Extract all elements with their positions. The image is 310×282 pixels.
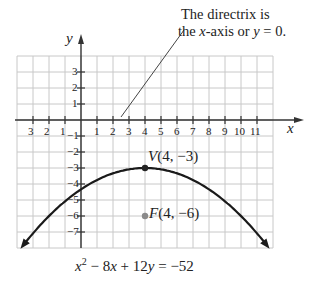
y-tick-label: −3	[67, 161, 79, 173]
x-axis-label: x	[287, 120, 294, 137]
x-tick-label: 1	[94, 125, 100, 137]
x-tick-label: 8	[206, 125, 212, 137]
equation-caption: x2 − 8x + 12y = −52	[75, 256, 194, 275]
y-tick-label: −4	[67, 177, 79, 189]
y-axis-label: y	[66, 30, 73, 47]
focus-label: F(4, −6)	[149, 205, 199, 222]
x-tick-label: 11	[250, 125, 261, 137]
directrix-callout: The directrix is the x-axis or y = 0.	[178, 6, 286, 40]
eq-text: = −52	[154, 258, 193, 274]
y-tick-label: −1	[67, 129, 79, 141]
focus-point	[142, 213, 148, 219]
x-tick-label: 3	[28, 125, 34, 137]
x-tick-label: 5	[158, 125, 164, 137]
callout-text: = 0.	[260, 23, 286, 39]
x-axis-arrow-icon	[294, 117, 304, 123]
eq-x2: x	[110, 258, 117, 274]
vertex-coords: (4, −3)	[157, 148, 198, 164]
vertex-letter: V	[148, 148, 157, 164]
y-tick-label: −5	[67, 193, 79, 205]
vertex-label: V(4, −3)	[148, 148, 198, 165]
y-tick-label: −7	[67, 225, 79, 237]
x-tick-label: 10	[234, 125, 245, 137]
plot-area	[0, 0, 310, 282]
y-tick-label: −6	[67, 209, 79, 221]
y-tick-label: 1	[72, 97, 78, 109]
y-tick-label: −2	[67, 145, 79, 157]
x-tick-label: 2	[110, 125, 116, 137]
callout-text: -axis or	[206, 23, 254, 39]
y-axis-arrow-icon	[78, 34, 84, 44]
parabola-figure: y x 3211234567891011321−1−2−3−4−5−6−7 Th…	[0, 0, 310, 282]
vertex-point	[142, 165, 148, 171]
x-tick-label: 6	[174, 125, 180, 137]
focus-coords: (4, −6)	[158, 205, 199, 221]
callout-line-2: the x-axis or y = 0.	[178, 23, 286, 40]
callout-text: the	[178, 23, 199, 39]
eq-x: x	[75, 258, 82, 274]
eq-text: + 12	[117, 258, 148, 274]
x-tick-label: 2	[44, 125, 50, 137]
eq-text: − 8	[87, 258, 110, 274]
focus-letter: F	[149, 205, 158, 221]
y-tick-label: 3	[72, 65, 78, 77]
y-tick-label: 2	[72, 81, 78, 93]
x-tick-label: 1	[60, 125, 66, 137]
x-tick-label: 7	[190, 125, 196, 137]
x-tick-label: 9	[222, 125, 228, 137]
x-tick-label: 4	[142, 125, 148, 137]
callout-line-1: The directrix is	[178, 6, 286, 23]
x-tick-label: 3	[126, 125, 132, 137]
